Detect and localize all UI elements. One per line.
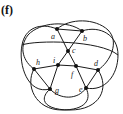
node-label-i: i bbox=[53, 56, 55, 65]
edge-c-i bbox=[58, 51, 68, 65]
node-label-f: f bbox=[71, 70, 75, 79]
node-g bbox=[48, 87, 52, 91]
node-label-e: e bbox=[79, 85, 83, 94]
edge-a-b bbox=[57, 29, 82, 31]
node-label-g: g bbox=[55, 86, 59, 95]
node-b bbox=[80, 29, 84, 33]
node-label-a: a bbox=[51, 32, 55, 41]
node-f bbox=[74, 64, 78, 68]
node-h bbox=[32, 67, 36, 71]
edge-i-f bbox=[58, 65, 76, 66]
edge-a-c bbox=[57, 29, 68, 51]
node-label-b: b bbox=[83, 34, 87, 43]
node-a bbox=[55, 27, 59, 31]
node-c bbox=[66, 49, 70, 53]
node-label-h: h bbox=[36, 58, 40, 67]
node-d bbox=[96, 68, 100, 72]
edge-d-e bbox=[86, 70, 98, 88]
node-i bbox=[56, 63, 60, 67]
graph-diagram: abchifdge bbox=[0, 0, 123, 114]
node-label-d: d bbox=[94, 59, 99, 68]
edge-h-g bbox=[34, 69, 50, 89]
node-label-c: c bbox=[72, 46, 76, 55]
node-e bbox=[84, 86, 88, 90]
